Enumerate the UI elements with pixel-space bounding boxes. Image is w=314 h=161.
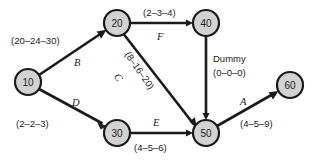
node-50-label: 50 — [200, 128, 212, 139]
edge-f-activity-label: F — [157, 32, 163, 43]
edge-e-duration-label: (4–5–6) — [134, 143, 167, 153]
edge-c-20-to-50 — [124, 35, 197, 129]
edge-a-activity-label: A — [240, 97, 246, 108]
node-50[interactable]: 50 — [193, 120, 219, 146]
edge-dummy-activity-label: Dummy — [213, 54, 246, 64]
node-10-label: 10 — [22, 77, 34, 88]
edge-dummy-duration-label: (0–0–0) — [213, 68, 246, 78]
node-10[interactable]: 10 — [15, 69, 41, 95]
node-30[interactable]: 30 — [104, 120, 130, 146]
node-40[interactable]: 40 — [193, 10, 219, 36]
edge-d-duration-label: (2–2–3) — [16, 119, 49, 129]
network-graph-canvas: 10 20 30 40 50 60 — [0, 0, 314, 161]
edge-a-duration-label: (4–5–9) — [240, 119, 273, 129]
edge-dummy-40-to-50 — [202, 36, 209, 120]
edge-d-activity-label: D — [72, 98, 80, 109]
node-40-label: 40 — [200, 18, 212, 29]
edge-e-30-to-50 — [130, 129, 193, 136]
node-20[interactable]: 20 — [104, 10, 130, 36]
network-diagram: 10 20 30 40 50 60 (20–24–30) B (2–2–3) D… — [0, 0, 314, 161]
edge-b-activity-label: B — [74, 58, 80, 69]
edge-f-duration-label: (2–3–4) — [143, 8, 176, 18]
node-20-label: 20 — [111, 18, 123, 29]
edge-f-20-to-40 — [130, 19, 193, 26]
edge-e-activity-label: E — [153, 118, 159, 129]
node-30-label: 30 — [111, 128, 123, 139]
edge-d-10-to-30 — [39, 89, 107, 130]
node-60-label: 60 — [284, 80, 296, 91]
edge-c-line — [124, 35, 194, 125]
node-60[interactable]: 60 — [277, 72, 303, 98]
edge-b-duration-label: (20–24–30) — [11, 36, 60, 46]
